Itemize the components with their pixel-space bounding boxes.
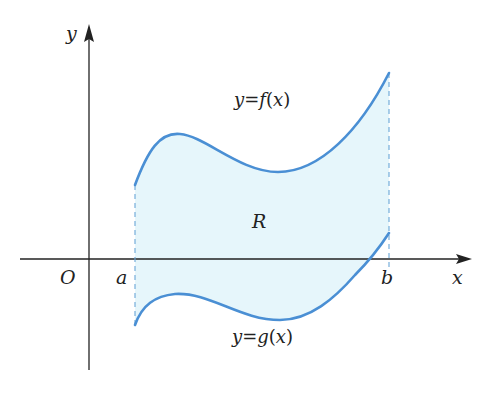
curve-g-label: y=g(x) xyxy=(231,326,293,347)
region-diagram: y x O a b R y=f(x) y=g(x) xyxy=(0,0,498,418)
region-r-fill xyxy=(135,73,389,325)
y-axis-label: y xyxy=(65,22,77,44)
bound-a-label: a xyxy=(116,266,127,288)
diagram-canvas: y x O a b R y=f(x) y=g(x) xyxy=(0,0,498,418)
origin-label: O xyxy=(60,266,76,288)
curve-f-label: y=f(x) xyxy=(233,89,290,110)
bound-b-label: b xyxy=(381,266,393,288)
region-r-label: R xyxy=(251,210,266,232)
x-axis-label: x xyxy=(452,266,463,288)
